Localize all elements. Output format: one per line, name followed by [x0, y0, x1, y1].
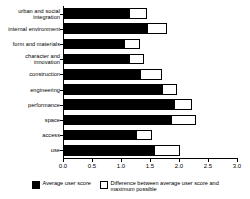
bar-segment-difference	[129, 8, 147, 19]
y-axis-tick-mark	[60, 90, 63, 91]
stacked-bar	[63, 130, 152, 141]
x-axis-tick-label: 1.0	[117, 162, 125, 170]
y-axis-tick-mark	[60, 105, 63, 106]
bar-segment-difference	[154, 145, 180, 156]
bar-segment-average-user-score	[63, 145, 155, 156]
legend-label-average-user-score: Average user score	[43, 180, 91, 186]
x-axis-ticks: 0.00.51.01.52.02.53.0	[63, 159, 238, 171]
bar-segment-difference	[171, 115, 196, 126]
y-axis-tick-mark	[60, 135, 63, 136]
stacked-bar	[63, 99, 192, 110]
y-axis-tick-mark	[60, 74, 63, 75]
bar-row	[63, 52, 237, 67]
y-axis-tick-mark	[60, 150, 63, 151]
legend-item-difference: Difference between average user score an…	[100, 180, 229, 193]
bar-segment-average-user-score	[63, 8, 130, 19]
y-axis-label-performance: performance	[0, 102, 60, 108]
bar-row	[63, 21, 237, 36]
stacked-bar	[63, 23, 167, 34]
bar-segment-difference	[147, 23, 167, 34]
bar-segment-difference	[124, 39, 140, 50]
y-axis-label-character-and-innovation: character and innovation	[0, 53, 60, 65]
plot-area	[63, 6, 237, 158]
bar-segment-average-user-score	[63, 99, 175, 110]
legend-swatch-filled-icon	[32, 181, 40, 189]
stacked-bar	[63, 8, 147, 19]
y-axis-tick-mark	[60, 29, 63, 30]
bar-row	[63, 82, 237, 97]
stacked-bar	[63, 145, 180, 156]
y-axis-label-construction: construction	[0, 71, 60, 77]
bar-row	[63, 112, 237, 127]
bar-segment-difference	[136, 130, 152, 141]
legend-label-difference: Difference between average user score an…	[110, 180, 228, 193]
bar-rows	[63, 6, 237, 158]
y-axis-label-urban-and-social-integration: urban and social integration	[0, 8, 60, 20]
bar-row	[63, 36, 237, 51]
y-axis-category-labels: urban and social integrationinternal env…	[0, 6, 60, 158]
y-axis-label-space: space	[0, 117, 60, 123]
stacked-bar	[63, 69, 162, 80]
y-axis-label-use: use	[0, 147, 60, 153]
bar-row	[63, 67, 237, 82]
x-axis-tick-label: 0.0	[59, 162, 67, 170]
y-axis-tick-mark	[60, 44, 63, 45]
bar-segment-average-user-score	[63, 115, 172, 126]
bar-segment-difference	[140, 69, 161, 80]
bar-chart: urban and social integrationinternal env…	[0, 0, 250, 199]
x-axis-tick-label: 2.0	[175, 162, 183, 170]
stacked-bar	[63, 39, 140, 50]
y-axis-label-access: access	[0, 132, 60, 138]
bar-segment-difference	[174, 99, 192, 110]
bar-segment-average-user-score	[63, 23, 148, 34]
bar-segment-average-user-score	[63, 84, 163, 95]
bar-row	[63, 143, 237, 158]
bar-segment-difference	[129, 54, 145, 65]
y-axis-label-form-and-materials: form and materials	[0, 41, 60, 47]
bar-segment-average-user-score	[63, 39, 125, 50]
stacked-bar	[63, 84, 177, 95]
x-axis-tick-label: 0.5	[88, 162, 96, 170]
bar-row	[63, 97, 237, 112]
y-axis-tick-mark	[60, 59, 63, 60]
bar-segment-average-user-score	[63, 54, 130, 65]
chart-legend: Average user score Difference between av…	[32, 180, 247, 198]
bar-row	[63, 6, 237, 21]
bar-segment-average-user-score	[63, 69, 141, 80]
legend-swatch-hollow-icon	[100, 181, 108, 189]
y-axis-tick-mark	[60, 14, 63, 15]
x-axis-tick-label: 1.5	[146, 162, 154, 170]
x-axis-tick-label: 3.0	[233, 162, 241, 170]
y-axis-tick-mark	[60, 120, 63, 121]
y-axis-label-engineering: engineering	[0, 87, 60, 93]
x-axis-tick-label: 2.5	[204, 162, 212, 170]
bar-segment-difference	[162, 84, 178, 95]
legend-item-average-user-score: Average user score	[32, 180, 91, 189]
bar-row	[63, 128, 237, 143]
stacked-bar	[63, 54, 144, 65]
stacked-bar	[63, 115, 196, 126]
bar-segment-average-user-score	[63, 130, 137, 141]
y-axis-label-internal-environment: internal environment	[0, 26, 60, 32]
